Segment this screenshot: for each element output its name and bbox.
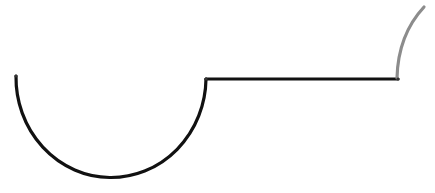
junction-point bbox=[396, 77, 399, 80]
start-point bbox=[14, 74, 17, 77]
corner-point bbox=[204, 77, 207, 80]
diagram-canvas bbox=[0, 0, 435, 193]
